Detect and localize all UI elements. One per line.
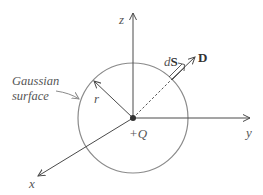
radius-arrow <box>94 81 133 118</box>
charge-label: +Q <box>129 127 147 140</box>
x-axis-label: x <box>29 177 35 190</box>
gaussian-label-line2: surface <box>12 90 49 103</box>
y-axis-label: y <box>246 126 252 139</box>
dashed-radial-line <box>133 80 171 118</box>
ds-label-s: S <box>171 54 178 69</box>
d-field-label: D <box>198 51 207 64</box>
x-axis-arrow <box>38 118 133 176</box>
z-axis-label: z <box>119 13 124 26</box>
ds-label: dS <box>164 55 178 68</box>
point-charge-dot <box>130 115 136 121</box>
gauss-law-diagram: z y x Gaussian surface r +Q dS D <box>0 0 263 195</box>
gaussian-label-line1: Gaussian <box>12 75 59 88</box>
surface-pointer-arrow <box>56 91 79 99</box>
radius-label: r <box>94 92 99 105</box>
